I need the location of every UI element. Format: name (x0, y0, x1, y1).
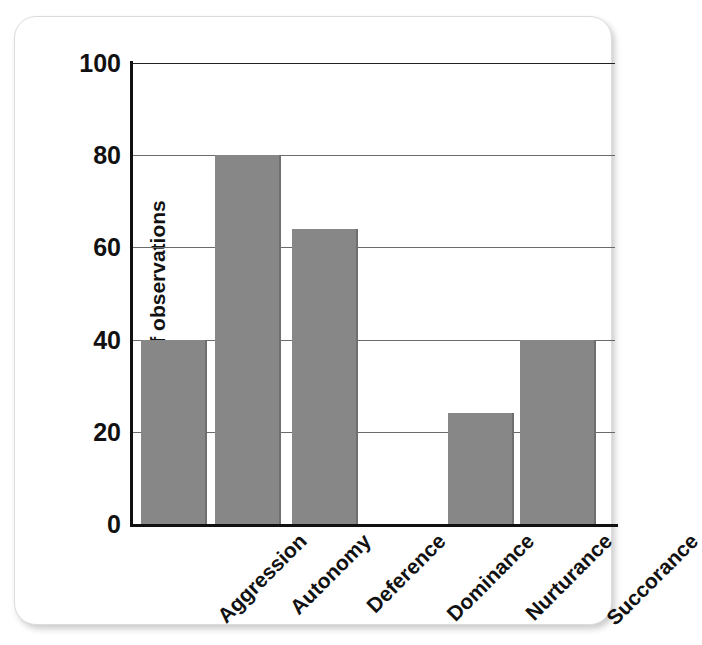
plot-area: 100 80 60 40 20 0 (133, 63, 615, 524)
x-tick-label-deference: Deference (362, 529, 451, 618)
bar-series (133, 63, 615, 524)
x-axis-line (130, 524, 618, 527)
y-tick-label-40: 40 (93, 327, 121, 352)
bar-autonomy[interactable] (215, 155, 281, 524)
x-tick-label-succorance: Succorance (602, 529, 702, 630)
y-tick-label-100: 100 (79, 51, 121, 76)
bar-succorance[interactable] (520, 340, 596, 524)
bar-nurturance[interactable] (448, 413, 514, 524)
chart-card: Number of observations 100 80 60 40 20 0 (14, 16, 612, 625)
bar-deference[interactable] (292, 229, 358, 524)
y-tick-label-20: 20 (93, 419, 121, 444)
x-axis-labels: Aggression Autonomy Deference Dominance … (133, 529, 615, 645)
y-tick-label-0: 0 (107, 512, 121, 537)
bar-aggression[interactable] (141, 340, 207, 524)
y-tick-label-80: 80 (93, 143, 121, 168)
y-tick-label-60: 60 (93, 235, 121, 260)
